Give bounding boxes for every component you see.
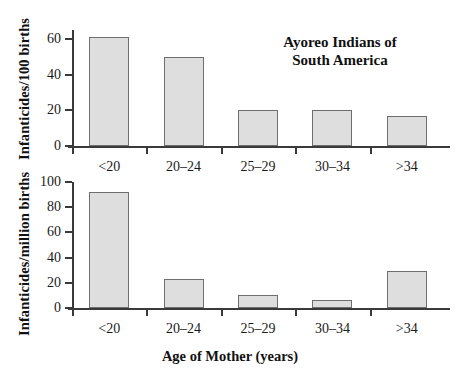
- bar-bottom-3: [312, 300, 352, 308]
- top-y-tick-mark: [65, 74, 72, 76]
- top-x-tick-label-4: >34: [396, 160, 418, 174]
- top-x-tick-mark: [72, 147, 74, 154]
- bar-top-2: [238, 110, 278, 146]
- bar-bottom-4: [387, 271, 427, 308]
- bottom-y-tick-mark: [65, 257, 72, 259]
- top-y-tick-mark: [65, 109, 72, 111]
- bar-bottom-2: [238, 295, 278, 308]
- top-x-tick-mark: [295, 147, 297, 154]
- bottom-y-tick-mark: [65, 282, 72, 284]
- top-y-tick-label: 20: [47, 103, 61, 117]
- plot-area-bottom: 020406080100 <2020–2425–2930–34>34: [72, 182, 444, 308]
- x-axis-label: Age of Mother (years): [0, 348, 460, 365]
- bar-top-1: [164, 57, 204, 146]
- top-x-tick-mark: [370, 147, 372, 154]
- bottom-x-tick-label-0: <20: [98, 322, 120, 336]
- top-x-tick-label-3: 30–34: [315, 160, 350, 174]
- top-x-tick-mark: [221, 147, 223, 154]
- bottom-x-tick-mark: [221, 309, 223, 316]
- bottom-x-tick-label-3: 30–34: [315, 322, 350, 336]
- bottom-x-tick-mark: [370, 309, 372, 316]
- panel-canada: Infanticides/million births Canada, 1974…: [0, 176, 460, 372]
- y-axis-line-bottom: [72, 182, 74, 308]
- bottom-y-tick-label: 20: [47, 276, 61, 290]
- bottom-y-tick-label: 40: [47, 251, 61, 265]
- bottom-y-tick-label: 80: [47, 200, 61, 214]
- bottom-x-tick-label-2: 25–29: [241, 322, 276, 336]
- x-axis-line-bottom: [68, 308, 450, 310]
- bottom-y-tick-label: 60: [47, 225, 61, 239]
- infanticide-bar-chart-figure: Infanticides/100 births Ayoreo Indians o…: [0, 0, 460, 372]
- top-y-tick-label: 60: [47, 32, 61, 46]
- bottom-y-tick-mark: [65, 307, 72, 309]
- bottom-x-tick-label-1: 20–24: [166, 322, 201, 336]
- top-x-tick-label-0: <20: [98, 160, 120, 174]
- bottom-x-tick-mark: [72, 309, 74, 316]
- top-x-tick-mark: [146, 147, 148, 154]
- bottom-y-tick-label: 0: [54, 301, 61, 315]
- bar-top-4: [387, 116, 427, 146]
- bar-top-3: [312, 110, 352, 146]
- top-x-tick-label-2: 25–29: [241, 160, 276, 174]
- top-y-tick-label: 0: [54, 139, 61, 153]
- bottom-x-tick-mark: [295, 309, 297, 316]
- bottom-y-tick-mark: [65, 206, 72, 208]
- bottom-y-tick-mark: [65, 181, 72, 183]
- panel-ayoreo: Infanticides/100 births Ayoreo Indians o…: [0, 8, 460, 168]
- y-axis-label-top: Infanticides/100 births: [16, 18, 33, 160]
- y-axis-line-top: [72, 30, 74, 146]
- bottom-y-tick-mark: [65, 231, 72, 233]
- bar-bottom-0: [89, 192, 129, 308]
- top-y-tick-mark: [65, 145, 72, 147]
- plot-area-top: 0204060 <2020–2425–2930–34>34: [72, 30, 444, 146]
- bar-top-0: [89, 37, 129, 146]
- bottom-x-tick-mark: [146, 309, 148, 316]
- top-y-tick-label: 40: [47, 68, 61, 82]
- top-x-tick-label-1: 20–24: [166, 160, 201, 174]
- bottom-x-tick-label-4: >34: [396, 322, 418, 336]
- bar-bottom-1: [164, 279, 204, 308]
- x-axis-line-top: [68, 146, 450, 148]
- bottom-y-tick-label: 100: [40, 175, 61, 189]
- top-y-tick-mark: [65, 38, 72, 40]
- y-axis-label-bottom: Infanticides/million births: [16, 172, 33, 336]
